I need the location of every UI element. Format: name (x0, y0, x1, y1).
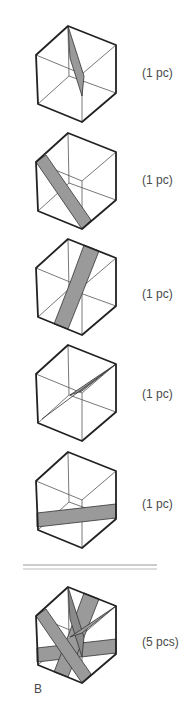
piece-count-label: (1 pc) (142, 387, 173, 401)
cube-piece-5 (36, 452, 116, 548)
piece-count-label: (1 pc) (142, 173, 173, 187)
piece-count-label: (1 pc) (142, 66, 173, 80)
puzzle-pieces-diagram (0, 0, 193, 717)
cube-piece-4 (36, 345, 116, 441)
piece-count-label: (1 pc) (142, 497, 173, 511)
cube-piece-1 (36, 26, 116, 122)
cube-assembly (36, 587, 116, 683)
cube-piece-3 (36, 239, 116, 335)
double-divider (23, 565, 157, 569)
piece-count-label: (1 pc) (142, 287, 173, 301)
figure-tag: B (34, 682, 42, 696)
cube-piece-2 (36, 133, 116, 229)
assembly-count-label: (5 pcs) (142, 635, 179, 649)
